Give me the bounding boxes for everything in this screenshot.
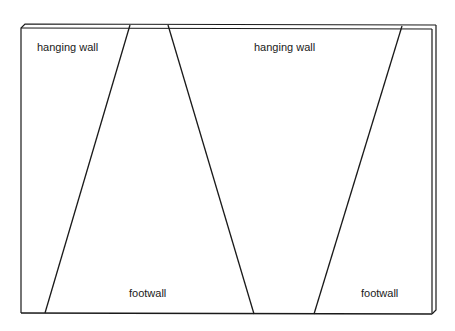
label-footwall-right: footwall (361, 287, 398, 299)
fault-line-left (45, 25, 130, 313)
block-right-side (432, 25, 436, 314)
fault-line-middle (168, 25, 254, 314)
label-hanging-wall-right: hanging wall (254, 41, 315, 53)
block-bottom-edge (21, 313, 432, 314)
block-top-surface (21, 24, 436, 313)
fault-line-right (314, 26, 402, 314)
label-hanging-wall-left: hanging wall (37, 41, 98, 53)
fault-block-diagram: hanging wall hanging wall footwall footw… (0, 0, 455, 331)
label-footwall-center: footwall (129, 287, 166, 299)
